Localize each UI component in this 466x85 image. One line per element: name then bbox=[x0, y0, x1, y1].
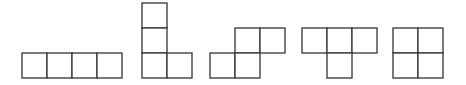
tetromino-cell bbox=[418, 53, 443, 78]
tetromino-cell bbox=[393, 53, 418, 78]
tetromino-cell bbox=[393, 28, 418, 53]
tetromino-o bbox=[0, 0, 466, 85]
tetromino-cell bbox=[418, 28, 443, 53]
tetromino-diagram bbox=[0, 0, 466, 85]
